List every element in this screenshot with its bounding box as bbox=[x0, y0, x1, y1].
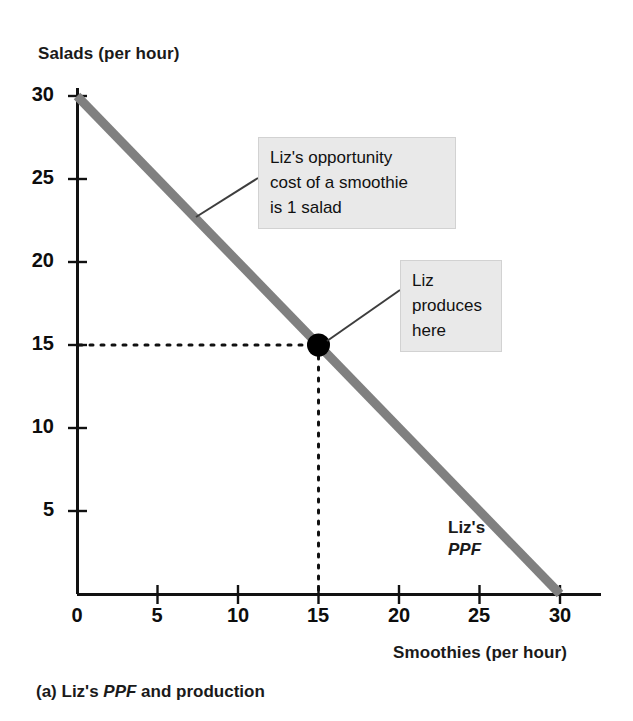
y-tick-label-20: 20 bbox=[8, 249, 54, 272]
produces-here-leader-line bbox=[327, 290, 400, 341]
y-axis-title: Salads (per hour) bbox=[38, 44, 180, 64]
figure-caption-italic: PPF bbox=[103, 682, 136, 701]
x-tick-label-5: 5 bbox=[137, 604, 177, 627]
production-point-marker bbox=[307, 334, 330, 357]
x-tick-label-0: 0 bbox=[57, 604, 97, 627]
opportunity-cost-leader-line bbox=[196, 178, 258, 217]
y-tick-label-15: 15 bbox=[8, 332, 54, 355]
y-tick-label-30: 30 bbox=[8, 83, 54, 106]
x-tick-label-10: 10 bbox=[218, 604, 258, 627]
y-tick-label-25: 25 bbox=[8, 166, 54, 189]
produces-here-callout: Liz produces here bbox=[400, 260, 502, 352]
figure-caption-suffix: and production bbox=[136, 682, 264, 701]
x-tick-label-20: 20 bbox=[379, 604, 419, 627]
x-tick-label-30: 30 bbox=[540, 604, 580, 627]
ppf-curve-label: Liz's PPF bbox=[448, 517, 485, 561]
ppf-curve-label-owner: Liz's bbox=[448, 517, 485, 539]
ppf-curve-label-abbr: PPF bbox=[448, 539, 485, 561]
figure-caption-prefix: (a) Liz's bbox=[36, 682, 103, 701]
figure-caption: (a) Liz's PPF and production bbox=[36, 682, 265, 702]
y-tick-label-10: 10 bbox=[8, 415, 54, 438]
x-axis-title: Smoothies (per hour) bbox=[393, 643, 567, 663]
x-tick-label-25: 25 bbox=[459, 604, 499, 627]
opportunity-cost-callout: Liz's opportunity cost of a smoothie is … bbox=[258, 137, 456, 229]
x-tick-label-15: 15 bbox=[298, 604, 338, 627]
figure-panel: Salads (per hour) Smoothies (per hour) 3… bbox=[0, 0, 633, 721]
y-tick-label-5: 5 bbox=[8, 498, 54, 521]
